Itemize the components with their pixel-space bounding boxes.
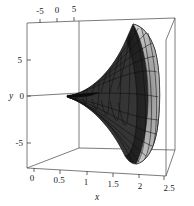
box-edge-bottom-right-diag — [166, 150, 175, 176]
tick-label-y-neg5: -5 — [16, 138, 24, 148]
tick-label-x-0.5: 0.5 — [53, 175, 65, 185]
axis-title-y: y — [8, 91, 14, 101]
tick-label-x-2: 2 — [138, 181, 143, 191]
tick-label-z-neg5: -5 — [36, 6, 44, 16]
tick-label-x-2.5: 2.5 — [163, 183, 175, 193]
box-edge-top-back-right — [79, 18, 175, 21]
box-edge-top-back-left — [27, 21, 79, 23]
box-edge-bottom-front — [27, 168, 166, 176]
axis-title-x: x — [94, 192, 100, 202]
tick-label-y-0: 0 — [20, 91, 25, 101]
plot-root: -5 0 5 5 0 -5 0 0.5 1 1.5 2 2.5 y x — [0, 0, 194, 206]
surface-of-revolution — [67, 24, 160, 164]
box-edge-top-right-diag — [166, 18, 175, 40]
surface-plot-canvas: -5 0 5 5 0 -5 0 0.5 1 1.5 2 2.5 y x — [0, 0, 194, 206]
tick-label-x-0: 0 — [30, 173, 35, 183]
tick-label-y-5: 5 — [18, 55, 23, 65]
tick-label-z-5: 5 — [72, 4, 77, 14]
tick-label-x-1.5: 1.5 — [107, 179, 119, 189]
tick-label-x-1: 1 — [84, 177, 89, 187]
box-edge-bottom-back-left — [27, 148, 79, 168]
tick-label-z-0: 0 — [55, 5, 60, 15]
